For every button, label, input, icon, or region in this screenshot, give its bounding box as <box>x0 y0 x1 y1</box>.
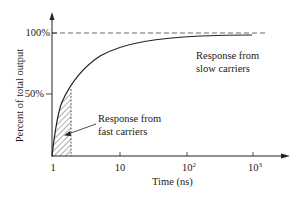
y-axis-title: Percent of total output <box>14 41 25 151</box>
fast-carrier-region <box>52 80 71 156</box>
x-tick-10: 10 <box>115 162 126 174</box>
x-tick-100: 102 <box>182 162 196 174</box>
x-axis <box>52 152 290 159</box>
x-tick-1: 1 <box>50 162 55 174</box>
slow-carriers-label-line2: slow carriers <box>196 63 250 75</box>
y-tick-100: 100% <box>20 27 50 39</box>
slow-carriers-label-line1: Response from <box>196 50 259 62</box>
x-axis-title: Time (ns) <box>152 176 193 188</box>
fast-carriers-label-line2: fast carriers <box>98 126 147 138</box>
fast-carriers-label-line1: Response from <box>98 113 161 125</box>
x-tick-1000: 103 <box>248 162 262 174</box>
